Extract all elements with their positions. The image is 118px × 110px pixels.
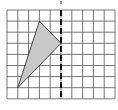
- reflection-grid-diagram: [0, 0, 118, 110]
- grid-canvas: [0, 0, 118, 110]
